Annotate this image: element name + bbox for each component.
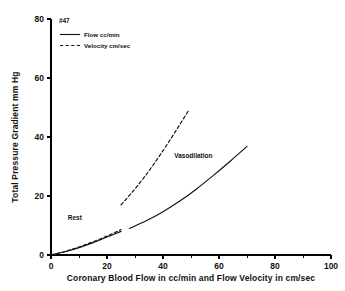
x-tick-label: 60 [214, 261, 224, 271]
y-tick-label: 40 [35, 132, 45, 142]
annotation-vasodilation: Vasodilation [174, 152, 212, 159]
x-tick-label: 40 [158, 261, 168, 271]
y-tick-label: 80 [35, 14, 45, 24]
line-chart-svg: 020406080 020406080100 RestVasodilation … [0, 0, 345, 291]
y-tick-label: 60 [35, 73, 45, 83]
chart-figure: 020406080 020406080100 RestVasodilation … [0, 0, 345, 291]
legend-label-flow: Flow cc/min [84, 31, 120, 38]
legend-label-velocity: Velocity cm/sec [84, 42, 131, 49]
x-tick-label: 0 [49, 261, 54, 271]
legend-case-id: #47 [59, 17, 70, 24]
y-axis-title: Total Pressure Gradient mm Hg [10, 71, 20, 202]
annotation-rest: Rest [68, 214, 83, 221]
x-tick-label: 100 [324, 261, 338, 271]
y-tick-label: 0 [39, 250, 44, 260]
x-tick-label: 80 [270, 261, 280, 271]
x-tick-label: 20 [102, 261, 112, 271]
x-axis-title: Coronary Blood Flow in cc/min and Flow V… [67, 273, 316, 283]
chart-background [0, 0, 345, 291]
y-tick-label: 20 [35, 191, 45, 201]
